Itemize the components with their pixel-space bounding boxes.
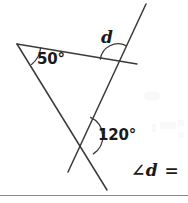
- angle-label-d: d: [101, 29, 113, 46]
- angle-label-50: 50°: [37, 52, 65, 67]
- bottom-divider: [0, 195, 188, 196]
- answer-prompt: ∠d =: [131, 160, 179, 180]
- angle-label-120: 120°: [98, 128, 136, 143]
- worksheet-page: 50° 120° d ∠d =: [0, 0, 188, 203]
